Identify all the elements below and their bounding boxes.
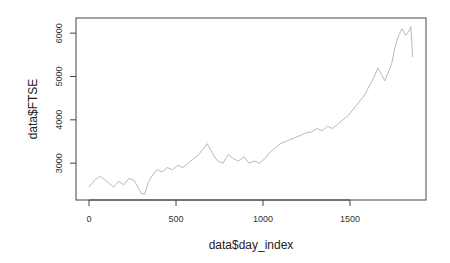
x-tick-label: 1500 xyxy=(340,214,360,224)
y-tick-label: 6000 xyxy=(54,23,64,43)
y-tick-label: 4000 xyxy=(54,110,64,130)
y-axis: 3000400050006000 xyxy=(54,23,76,173)
x-tick-label: 0 xyxy=(87,214,92,224)
y-axis-title: data$FTSE xyxy=(26,79,40,140)
line-chart: 050010001500 3000400050006000 data$day_i… xyxy=(0,0,450,263)
y-tick-label: 3000 xyxy=(54,153,64,173)
x-tick-label: 500 xyxy=(169,214,184,224)
plot-frame xyxy=(76,18,426,200)
y-tick-label: 5000 xyxy=(54,66,64,86)
x-tick-label: 1000 xyxy=(253,214,273,224)
x-axis: 050010001500 xyxy=(87,200,360,224)
x-axis-title: data$day_index xyxy=(209,238,294,252)
ftse-series-line xyxy=(89,27,413,195)
